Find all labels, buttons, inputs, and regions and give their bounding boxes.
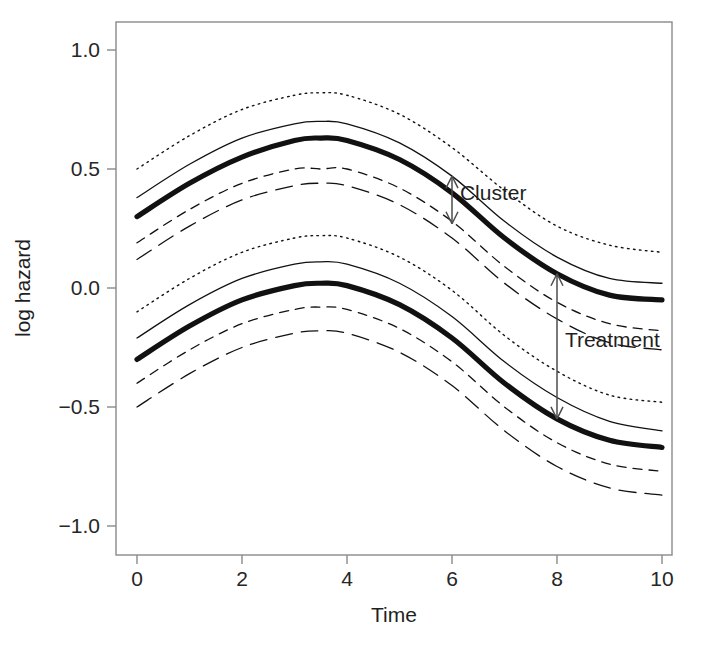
y-tick-label: 0.0: [71, 276, 100, 299]
y-axis-title: log hazard: [11, 239, 34, 337]
y-tick-label: −1.0: [59, 514, 100, 537]
y-tick-label: −0.5: [59, 395, 100, 418]
log-hazard-line-chart: 0246810 −1.0−0.50.00.51.0 ClusterTreatme…: [0, 0, 724, 654]
x-tick-label: 8: [551, 567, 563, 590]
x-tick-label: 4: [341, 567, 353, 590]
series-lower-group-mean-bold: [137, 283, 662, 447]
series-upper-group-mean-bold: [137, 138, 662, 300]
series-lower-group-outer-lower-longdash: [137, 331, 662, 495]
x-axis-title: Time: [371, 603, 417, 626]
y-tick-label: 0.5: [71, 157, 100, 180]
y-tick-label: 1.0: [71, 38, 100, 61]
series-lower-group-outer-upper-dotted: [137, 235, 662, 402]
x-tick-label: 6: [446, 567, 458, 590]
curve-group: [137, 93, 662, 495]
x-tick-label: 10: [650, 567, 673, 590]
series-upper-group-inner-upper-solid: [137, 121, 662, 283]
x-tick-label: 0: [131, 567, 143, 590]
chart-figure: 0246810 −1.0−0.50.00.51.0 ClusterTreatme…: [0, 0, 724, 654]
x-tick-label: 2: [236, 567, 248, 590]
x-axis-ticks: 0246810: [131, 555, 674, 590]
series-upper-group-outer-upper-dotted: [137, 93, 662, 253]
y-axis-ticks: −1.0−0.50.00.51.0: [59, 38, 116, 537]
series-upper-group-outer-lower-longdash: [137, 183, 662, 350]
annotation-label-cluster: Cluster: [460, 181, 527, 204]
annotation-label-treatment: Treatment: [565, 328, 660, 351]
